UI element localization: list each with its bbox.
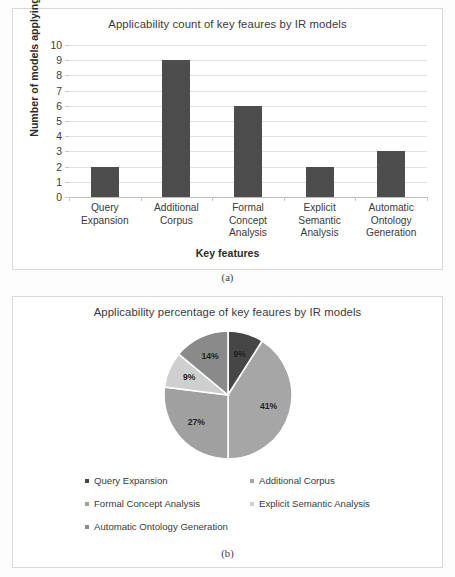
legend-swatch-icon — [250, 479, 254, 483]
bar-chart-category-labels: QueryExpansionAdditionalCorpusFormalConc… — [69, 202, 427, 240]
category-label-line: Formal — [212, 202, 284, 215]
pie-slice-label-explicit-semantic-analysis: 9% — [183, 372, 196, 382]
pie-slice-label-query-expansion: 9% — [233, 349, 246, 359]
legend-item-label: Formal Concept Analysis — [94, 498, 200, 509]
bar-chart-x-tick-mark — [284, 197, 285, 201]
pie-chart-svg: 9%41%27%9%14% — [148, 325, 308, 465]
bar-chart-bar-cell — [284, 45, 356, 197]
bar-chart-bar-cell — [355, 45, 427, 197]
legend-item-explicit-semantic-analysis[interactable]: Explicit Semantic Analysis — [250, 498, 415, 509]
pie-chart-legend: Query ExpansionAdditional CorpusFormal C… — [85, 475, 415, 544]
bar-automatic-ontology-generation[interactable] — [377, 151, 405, 197]
legend-swatch-icon — [85, 525, 89, 529]
legend-item-label: Explicit Semantic Analysis — [259, 498, 370, 509]
legend-swatch-icon — [85, 502, 89, 506]
bar-chart-x-tick-mark — [427, 197, 428, 201]
pie-chart-title: Applicability percentage of key feaures … — [13, 306, 442, 318]
bar-chart-y-tick-label: 8 — [56, 70, 62, 81]
legend-item-automatic-ontology-generation[interactable]: Automatic Ontology Generation — [85, 521, 415, 532]
bar-chart-y-tick-label: 9 — [56, 55, 62, 66]
bar-chart-y-tick-label: 6 — [56, 100, 62, 111]
bar-chart-title: Applicability count of key feaures by IR… — [13, 18, 442, 30]
category-label-line: Query — [69, 202, 141, 215]
legend-item-formal-concept-analysis[interactable]: Formal Concept Analysis — [85, 498, 250, 509]
category-label-line: Semantic — [284, 215, 356, 228]
pie-slice-label-automatic-ontology-generation: 14% — [201, 351, 219, 361]
bar-chart-y-tick-label: 1 — [56, 176, 62, 187]
bar-formal-concept-analysis[interactable] — [234, 106, 262, 197]
bar-chart-y-tick-label: 10 — [50, 40, 62, 51]
bar-chart-y-tick-label: 2 — [56, 161, 62, 172]
category-label-line: Analysis — [284, 227, 356, 240]
bar-chart-category-formal-concept-analysis: FormalConceptAnalysis — [212, 202, 284, 240]
bar-chart-bars — [69, 45, 427, 197]
bar-query-expansion[interactable] — [91, 167, 119, 197]
bar-chart-bar-cell — [212, 45, 284, 197]
category-label-line: Automatic — [355, 202, 427, 215]
category-label-line: Ontology — [355, 215, 427, 228]
figure-caption-a: (a) — [0, 272, 455, 283]
bar-chart-category-automatic-ontology-generation: AutomaticOntologyGeneration — [355, 202, 427, 240]
legend-swatch-icon — [85, 479, 89, 483]
legend-item-label: Additional Corpus — [259, 475, 335, 486]
bar-chart-bar-cell — [69, 45, 141, 197]
bar-chart-category-query-expansion: QueryExpansion — [69, 202, 141, 240]
bar-chart-plot-area: 109876543210 — [69, 45, 427, 197]
bar-chart-category-explicit-semantic-analysis: ExplicitSemanticAnalysis — [284, 202, 356, 240]
pie-chart-panel: Applicability percentage of key feaures … — [12, 296, 443, 568]
bar-chart-y-tick-label: 5 — [56, 116, 62, 127]
bar-additional-corpus[interactable] — [162, 60, 190, 197]
category-label-line: Corpus — [141, 215, 213, 228]
bar-chart-y-tick-label: 3 — [56, 146, 62, 157]
figure-container: Applicability count of key feaures by IR… — [0, 0, 455, 577]
bar-chart-y-tick-label: 0 — [56, 192, 62, 203]
bar-chart-y-tick-label: 7 — [56, 85, 62, 96]
figure-caption-b: (b) — [0, 548, 455, 559]
legend-item-query-expansion[interactable]: Query Expansion — [85, 475, 250, 486]
category-label-line: Analysis — [212, 227, 284, 240]
bar-chart-x-tick-mark — [212, 197, 213, 201]
bar-chart-x-axis-label: Key features — [13, 247, 442, 259]
bar-chart-panel: Applicability count of key feaures by IR… — [12, 8, 443, 270]
legend-item-label: Query Expansion — [94, 475, 168, 486]
bar-chart-y-axis-label: Number of models applying — [28, 0, 40, 142]
legend-item-additional-corpus[interactable]: Additional Corpus — [250, 475, 415, 486]
bar-chart-bar-cell — [141, 45, 213, 197]
category-label-line: Expansion — [69, 215, 141, 228]
category-label-line: Generation — [355, 227, 427, 240]
legend-item-label: Automatic Ontology Generation — [94, 521, 228, 532]
pie-slice-label-additional-corpus: 41% — [259, 401, 277, 411]
bar-chart-x-tick-mark — [69, 197, 70, 201]
legend-swatch-icon — [250, 502, 254, 506]
bar-chart-gridline — [69, 197, 427, 198]
category-label-line: Explicit — [284, 202, 356, 215]
bar-chart-x-tick-mark — [355, 197, 356, 201]
pie-slice-label-formal-concept-analysis: 27% — [187, 417, 205, 427]
category-label-line: Additional — [141, 202, 213, 215]
bar-chart-x-tick-mark — [141, 197, 142, 201]
bar-explicit-semantic-analysis[interactable] — [306, 167, 334, 197]
bar-chart-category-additional-corpus: AdditionalCorpus — [141, 202, 213, 240]
category-label-line: Concept — [212, 215, 284, 228]
pie-chart-plot-area: 9%41%27%9%14% — [13, 325, 442, 470]
bar-chart-y-tick-label: 4 — [56, 131, 62, 142]
